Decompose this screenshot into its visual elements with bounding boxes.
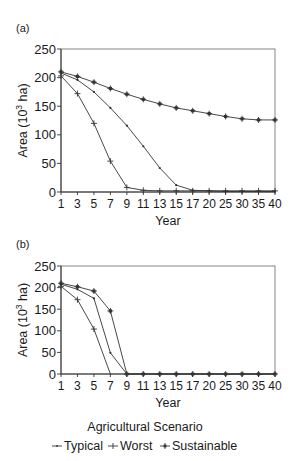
plot-frame <box>61 266 275 374</box>
sustainable-marker <box>206 111 212 117</box>
x-tick-label: 35 <box>252 197 266 211</box>
y-tick-label: 200 <box>34 70 56 85</box>
x-tick-label: 7 <box>107 197 114 211</box>
x-tick-label: 13 <box>153 197 167 211</box>
sustainable-marker <box>256 117 262 123</box>
x-tick-label: 17 <box>186 379 200 393</box>
sustainable-marker <box>190 108 196 114</box>
worst-marker <box>239 188 245 194</box>
x-tick-label: 25 <box>219 379 233 393</box>
sustainable-marker <box>107 85 113 91</box>
x-tick-label: 30 <box>235 379 249 393</box>
typical-marker <box>175 184 177 186</box>
sustainable-marker <box>124 91 130 97</box>
worst-marker <box>272 188 278 194</box>
sustainable-marker <box>206 371 212 377</box>
legend-label: Worst <box>120 439 153 453</box>
x-tick-label: 5 <box>91 197 98 211</box>
x-axis-title: Year <box>155 396 180 410</box>
y-tick-label: 100 <box>34 127 56 142</box>
y-tick-label: 0 <box>49 185 56 200</box>
sustainable-marker <box>157 101 163 107</box>
typical-marker <box>126 125 128 127</box>
legend-label: Sustainable <box>172 439 237 453</box>
sustainable-marker <box>256 371 262 377</box>
x-axis-title: Year <box>155 214 180 228</box>
x-tick-label: 3 <box>74 197 81 211</box>
panel-a-chart: (a)0501001502002501357911131517202530354… <box>14 22 282 228</box>
y-tick-label: 50 <box>42 156 56 171</box>
worst-marker <box>190 188 196 194</box>
worst-marker <box>107 158 113 164</box>
typical-marker <box>93 297 95 299</box>
sustainable-marker <box>223 371 229 377</box>
y-tick-label: 150 <box>34 99 56 114</box>
sustainable-marker <box>272 117 278 123</box>
y-tick-label: 50 <box>42 345 56 360</box>
x-tick-label: 3 <box>74 379 81 393</box>
sustainable-marker <box>190 371 196 377</box>
series-sustainable <box>58 69 278 123</box>
series-typical <box>60 72 276 193</box>
plot-frame <box>61 49 275 192</box>
worst-marker <box>157 188 163 194</box>
typical-marker <box>109 107 111 109</box>
x-tick-label: 40 <box>268 197 282 211</box>
x-tick-label: 40 <box>268 379 282 393</box>
sustainable-marker <box>157 371 163 377</box>
y-tick-label: 250 <box>34 42 56 57</box>
worst-marker <box>223 188 229 194</box>
x-tick-label: 15 <box>170 379 184 393</box>
sustainable-marker <box>140 371 146 377</box>
y-tick-label: 100 <box>34 323 56 338</box>
sustainable-marker <box>223 113 229 119</box>
legend-item-worst: Worst <box>108 439 153 453</box>
x-tick-label: 9 <box>124 379 131 393</box>
sustainable-marker <box>91 79 97 85</box>
series-worst <box>58 283 110 374</box>
sustainable-marker <box>272 371 278 377</box>
legend-item-typical: Typical <box>52 439 103 453</box>
x-tick-label: 1 <box>58 197 65 211</box>
worst-marker <box>256 188 262 194</box>
y-axis-title: Area (103 ha) <box>14 283 30 357</box>
x-tick-label: 7 <box>107 379 114 393</box>
worst-marker <box>91 120 97 126</box>
figure: (a)0501001502002501357911131517202530354… <box>0 0 290 461</box>
typical-marker <box>93 91 95 93</box>
x-tick-label: 5 <box>91 379 98 393</box>
x-tick-label: 17 <box>186 197 200 211</box>
y-tick-label: 150 <box>34 302 56 317</box>
legend-title: Agricultural Scenario <box>87 420 202 434</box>
x-tick-label: 25 <box>219 197 233 211</box>
series-worst <box>58 73 278 194</box>
legend-item-sustainable: Sustainable <box>160 439 237 453</box>
x-tick-label: 30 <box>235 197 249 211</box>
x-tick-label: 35 <box>252 379 266 393</box>
x-tick-label: 1 <box>58 379 65 393</box>
x-tick-label: 13 <box>153 379 167 393</box>
worst-marker <box>124 184 130 190</box>
typical-marker <box>142 145 144 147</box>
sustainable-marker <box>58 280 64 286</box>
legend-label: Typical <box>64 439 103 453</box>
panel-label: (a) <box>16 22 29 34</box>
legend: Agricultural Scenario TypicalWorstSustai… <box>52 420 237 453</box>
panel-label: (b) <box>16 238 29 250</box>
y-tick-label: 0 <box>49 367 56 382</box>
sustainable-marker <box>239 371 245 377</box>
x-tick-label: 11 <box>137 379 150 393</box>
sustainable-marker <box>173 105 179 111</box>
worst-marker <box>91 326 97 332</box>
y-axis-title: Area (103 ha) <box>14 83 30 157</box>
x-tick-label: 20 <box>202 197 216 211</box>
x-tick-label: 9 <box>124 197 131 211</box>
worst-marker <box>173 188 179 194</box>
y-tick-label: 250 <box>34 259 56 274</box>
y-tick-label: 200 <box>34 280 56 295</box>
worst-marker <box>206 188 212 194</box>
x-tick-label: 20 <box>202 379 216 393</box>
typical-marker <box>109 352 111 354</box>
sustainable-marker <box>173 371 179 377</box>
sustainable-marker <box>140 96 146 102</box>
